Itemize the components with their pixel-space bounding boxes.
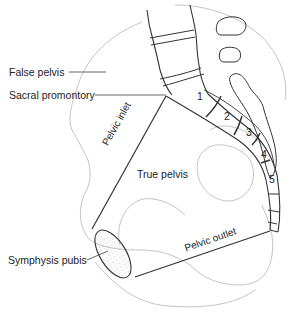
lumbar-spine-left-edge [190, 5, 208, 94]
vertebral-disc [150, 30, 194, 38]
inner-contour [119, 199, 185, 245]
pelvis-diagram [0, 0, 291, 313]
sacral-segment-5: 5 [269, 173, 275, 185]
sacral-crest [230, 74, 277, 178]
sacral-segment-divider [234, 116, 242, 135]
label-sacral-promontory: Sacral promontory [9, 89, 95, 101]
transverse-process [219, 47, 240, 62]
sacral-segment-4: 4 [261, 148, 267, 160]
iliac-crest-outline [175, 5, 286, 100]
label-true-pelvis: True pelvis [137, 168, 188, 180]
pelvic-inlet-line [92, 96, 166, 229]
coccyx-divider [268, 210, 279, 212]
label-symphysis-pubis: Symphysis pubis [8, 254, 87, 266]
sacral-segment-3: 3 [246, 126, 252, 138]
sacrum-anterior-edge [166, 96, 271, 230]
lumbar-spine-right-edge [147, 10, 172, 95]
vertebral-disc [151, 37, 195, 45]
label-false-pelvis: False pelvis [9, 66, 64, 78]
vertebral-disc [160, 68, 201, 79]
sacrum-posterior-edge [208, 94, 280, 232]
transverse-process [216, 17, 246, 35]
sacral-segment-2: 2 [224, 110, 230, 122]
obturator-outline [197, 145, 253, 201]
vertebral-disc [163, 74, 204, 86]
symphysis-pubis-shape [88, 224, 139, 284]
sacral-segment-1: 1 [197, 90, 203, 102]
